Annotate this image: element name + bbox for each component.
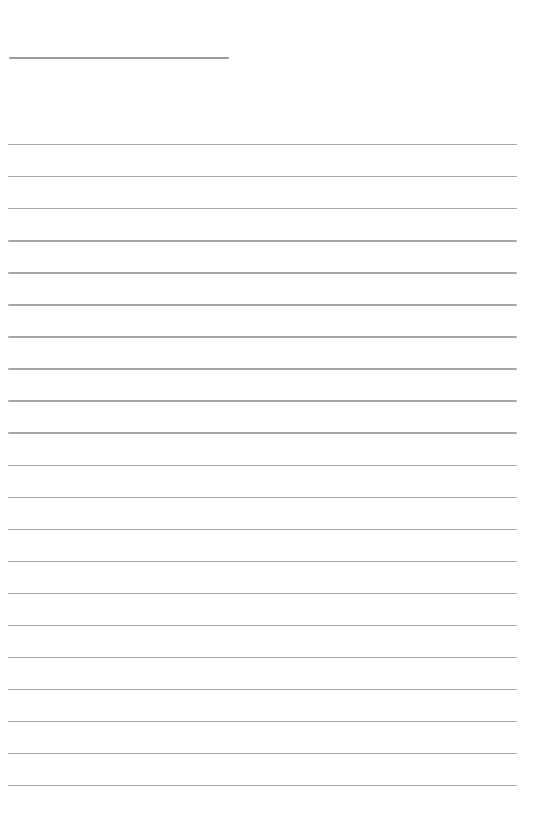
ruled-line xyxy=(8,753,517,754)
ruled-line xyxy=(8,657,517,658)
ruled-line xyxy=(8,304,517,305)
ruled-lines-container xyxy=(0,0,545,838)
ruled-line xyxy=(8,721,517,722)
ruled-line xyxy=(8,336,517,337)
ruled-line xyxy=(8,240,517,241)
ruled-line xyxy=(8,272,517,273)
ruled-line xyxy=(8,432,517,433)
ruled-line xyxy=(8,689,517,690)
ruled-line xyxy=(8,561,517,562)
ruled-line xyxy=(8,625,517,626)
ruled-line xyxy=(8,465,517,466)
ruled-line xyxy=(8,785,517,786)
ruled-line xyxy=(8,400,517,401)
ruled-line xyxy=(8,593,517,594)
notes-page xyxy=(0,0,545,838)
ruled-line xyxy=(8,529,517,530)
ruled-line xyxy=(8,144,517,145)
ruled-line xyxy=(8,176,517,177)
ruled-line xyxy=(8,497,517,498)
ruled-line xyxy=(8,368,517,369)
ruled-line xyxy=(8,208,517,209)
